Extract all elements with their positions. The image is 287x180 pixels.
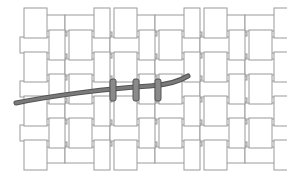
warp-strip bbox=[274, 140, 287, 170]
stitch-loop bbox=[110, 79, 116, 101]
weft-strip bbox=[180, 81, 200, 97]
warp-strip bbox=[49, 30, 65, 60]
warp-strip bbox=[249, 118, 272, 148]
warp-strip bbox=[114, 140, 137, 170]
weft-strip bbox=[135, 103, 155, 119]
warp-strip bbox=[204, 8, 227, 38]
weft-strip bbox=[225, 59, 245, 75]
weft-strip bbox=[200, 37, 231, 53]
weft-strip bbox=[90, 37, 110, 53]
weft-strip bbox=[180, 37, 200, 53]
warp-strip bbox=[24, 8, 47, 38]
weft-strip bbox=[245, 147, 276, 163]
stitch-loop bbox=[155, 79, 161, 101]
warp-strip bbox=[184, 140, 200, 170]
weft-strip bbox=[20, 37, 51, 53]
warp-strip bbox=[274, 96, 287, 126]
warp-strip bbox=[94, 96, 110, 126]
weft-strip bbox=[110, 37, 141, 53]
warp-strip bbox=[24, 140, 47, 170]
weft-strip bbox=[45, 103, 65, 119]
warp-strip bbox=[204, 140, 227, 170]
warp-strip bbox=[139, 118, 155, 148]
warp-strip bbox=[249, 74, 272, 104]
weft-strip bbox=[245, 103, 276, 119]
weft-strip bbox=[65, 59, 96, 75]
weft-strip bbox=[245, 59, 276, 75]
warp-strip bbox=[49, 118, 65, 148]
warp-strip bbox=[69, 74, 92, 104]
weft-strip bbox=[270, 81, 287, 97]
warp-strip bbox=[229, 74, 245, 104]
basket-weave-illustration bbox=[0, 0, 287, 180]
weft-strip bbox=[45, 147, 65, 163]
warp-strip bbox=[94, 8, 110, 38]
weft-strip bbox=[225, 147, 245, 163]
weft-strip bbox=[20, 125, 51, 141]
weft-strip bbox=[45, 59, 65, 75]
weft-strip bbox=[200, 81, 231, 97]
weft-strip bbox=[135, 147, 155, 163]
warp-strip bbox=[94, 52, 110, 82]
weft-strip bbox=[155, 59, 186, 75]
warp-strip bbox=[249, 30, 272, 60]
warp-strip bbox=[69, 118, 92, 148]
warp-strip bbox=[69, 30, 92, 60]
weft-strip bbox=[20, 81, 51, 97]
warp-strip bbox=[24, 52, 47, 82]
weft-strip bbox=[65, 103, 96, 119]
warp-strip bbox=[159, 118, 182, 148]
weft-strip bbox=[155, 103, 186, 119]
warp-strip bbox=[229, 30, 245, 60]
warp-strip bbox=[114, 52, 137, 82]
stitch-loop bbox=[133, 79, 139, 101]
weft-strip bbox=[245, 15, 276, 31]
weft-strip bbox=[225, 103, 245, 119]
warp-strip bbox=[49, 74, 65, 104]
weft-strip bbox=[90, 125, 110, 141]
warp-strip bbox=[184, 8, 200, 38]
warp-strip bbox=[139, 30, 155, 60]
weft-strip bbox=[155, 147, 186, 163]
weft-strip bbox=[65, 15, 96, 31]
warp-strip bbox=[159, 30, 182, 60]
warp-strip bbox=[204, 52, 227, 82]
weft-strip bbox=[135, 59, 155, 75]
weft-strip bbox=[155, 15, 186, 31]
weft-strip bbox=[180, 125, 200, 141]
weft-strip bbox=[110, 125, 141, 141]
weft-strip bbox=[65, 147, 96, 163]
weave-diagram: Basket weave with threaded needle bbox=[0, 0, 287, 180]
warp-strip bbox=[274, 52, 287, 82]
warp-strip bbox=[204, 96, 227, 126]
weft-strip bbox=[200, 125, 231, 141]
weft-strip bbox=[270, 125, 287, 141]
warp-strip bbox=[94, 140, 110, 170]
warp-strip bbox=[274, 8, 287, 38]
warp-strip bbox=[114, 8, 137, 38]
weft-strip bbox=[135, 15, 155, 31]
weft-strip bbox=[270, 37, 287, 53]
weft-strip bbox=[225, 15, 245, 31]
warp-strip bbox=[184, 96, 200, 126]
warp-strip bbox=[229, 118, 245, 148]
weft-strip bbox=[45, 15, 65, 31]
